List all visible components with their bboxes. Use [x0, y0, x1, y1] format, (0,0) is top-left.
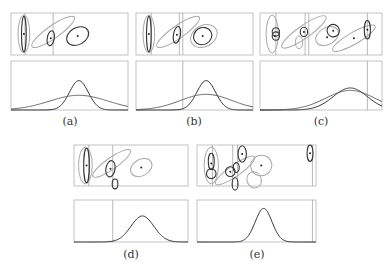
caption-e: (e) [249, 248, 264, 261]
mean-point [229, 171, 231, 173]
density-curve-wide [260, 90, 382, 110]
panel-b [136, 12, 253, 110]
mean-point [353, 37, 355, 39]
mean-point [260, 165, 262, 167]
density-curve-narrow [197, 208, 316, 242]
density-box [197, 200, 316, 242]
mean-point [86, 165, 88, 167]
prior-ellipse [245, 170, 264, 190]
mean-point [210, 162, 212, 164]
posterior-ellipse [207, 169, 217, 179]
density-box [136, 61, 253, 110]
mean-point [202, 35, 204, 37]
scatter-box [11, 13, 128, 55]
density-box [11, 61, 128, 110]
mean-point [140, 167, 142, 169]
mean-point [326, 36, 328, 38]
mean-point [77, 35, 79, 37]
mean-point [109, 168, 111, 170]
figure: (a) (b) (c) (d) (e) [0, 0, 387, 270]
prior-ellipse [186, 20, 221, 52]
panel-c [260, 11, 382, 110]
mean-point [303, 31, 305, 33]
mean-point [241, 153, 243, 155]
posterior-ellipse [233, 163, 239, 173]
panel-d [74, 145, 188, 242]
mean-point [366, 29, 368, 31]
caption-b: (b) [186, 115, 202, 128]
mean-point [148, 33, 150, 35]
density-curve-narrow [74, 216, 188, 242]
mean-point [176, 34, 178, 36]
scatter-box [197, 145, 316, 186]
caption-a: (a) [62, 115, 77, 128]
density-curve-narrow [260, 88, 382, 110]
mean-point [309, 152, 311, 154]
density-box [74, 200, 188, 242]
posterior-ellipse [208, 153, 214, 169]
density-curve-wide [11, 95, 128, 109]
density-curve-narrow [11, 81, 128, 110]
panel-a [11, 12, 128, 110]
density-curve-narrow [136, 81, 253, 110]
prior-ellipse [79, 147, 93, 184]
mean-point [50, 37, 52, 39]
caption-d: (d) [123, 248, 139, 261]
panel-e [197, 145, 316, 242]
density-box [260, 61, 382, 110]
caption-c: (c) [314, 115, 329, 128]
mean-point [274, 35, 276, 37]
mean-point [23, 33, 25, 35]
mean-point [332, 30, 334, 32]
